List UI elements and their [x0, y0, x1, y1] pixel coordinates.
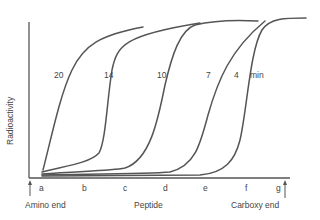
- carboxy-end-label: Carboxy end: [231, 201, 279, 210]
- tick-label-d: d: [163, 184, 168, 193]
- tick-label-b: b: [82, 184, 87, 193]
- curve-label-10: 10: [157, 71, 166, 80]
- y-axis-label: Radioactivity: [6, 97, 15, 145]
- amino-end-arrow-icon: [28, 180, 32, 196]
- unit-label: min: [250, 71, 264, 80]
- curve-label-20: 20: [54, 71, 63, 80]
- tick-label-f: f: [245, 184, 247, 193]
- tick-label-a: a: [39, 184, 44, 193]
- curve-label-4: 4: [234, 71, 239, 80]
- curve-20-min: [43, 27, 143, 170]
- carboxy-end-arrow-icon: [283, 180, 287, 198]
- x-axis-label: Peptide: [134, 201, 163, 210]
- curve-4-min: [42, 18, 306, 176]
- curve-label-7: 7: [206, 71, 211, 80]
- tick-label-g: g: [276, 184, 281, 193]
- tick-label-e: e: [203, 184, 208, 193]
- radioactivity-chart: [0, 0, 320, 220]
- curve-14-min: [42, 23, 200, 172]
- curve-10-min: [42, 20, 258, 174]
- curve-7-min: [42, 21, 265, 175]
- amino-end-label: Amino end: [25, 201, 66, 210]
- curve-label-14: 14: [104, 71, 113, 80]
- tick-label-c: c: [123, 184, 127, 193]
